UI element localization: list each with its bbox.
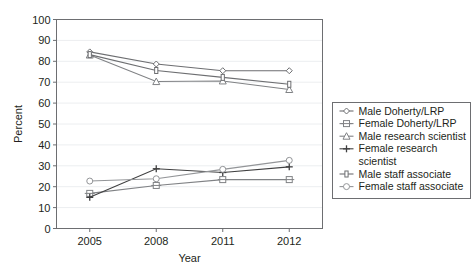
series-line-4 [90,55,290,85]
y-tick-label-90: 90 [38,34,50,46]
datapoint-0-3 [286,68,292,74]
datapoint-3-3 [286,163,293,170]
datapoint-1-3 [284,177,294,183]
legend-marker-1 [342,121,352,127]
y-tick-label-20: 20 [38,181,50,193]
legend-label-4: scientist [359,155,397,167]
y-tick-label-100: 100 [32,14,50,26]
datapoint-1-2 [218,177,228,183]
y-tick-label-60: 60 [38,97,50,109]
datapoint-0-1 [153,61,159,67]
y-tick-label-70: 70 [38,76,50,88]
y-tick-label-40: 40 [38,139,50,151]
chart-figure: 01020304050607080901002005200820112012Ye… [0,0,474,276]
x-tick-label-2005: 2005 [78,235,102,247]
legend-label-0: Male Doherty/LRP [359,105,445,117]
legend-marker-5 [344,184,350,190]
datapoint-5-3 [286,157,292,163]
legend-label-6: Female staff associate [359,180,464,192]
datapoint-5-2 [220,166,226,172]
datapoint-4-0 [88,52,91,58]
datapoint-4-3 [288,81,291,87]
datapoint-0-2 [220,68,226,74]
legend-label-3: Female research [359,142,438,154]
y-tick-label-0: 0 [44,223,50,235]
x-tick-label-2011: 2011 [211,235,235,247]
legend-label-1: Female Doherty/LRP [359,117,457,129]
datapoint-5-0 [87,178,93,184]
datapoint-4-2 [221,74,224,80]
legend-label-5: Male staff associate [359,168,452,180]
y-tick-label-80: 80 [38,55,50,67]
x-axis-title: Year [178,252,201,264]
series-2 [86,52,293,93]
legend-marker-4 [345,171,348,177]
y-tick-label-10: 10 [38,202,50,214]
legend-label-2: Male research scientist [359,130,466,142]
y-tick-label-50: 50 [38,118,50,130]
datapoint-4-1 [155,67,158,73]
y-tick-label-30: 30 [38,160,50,172]
datapoint-5-1 [153,176,159,182]
x-tick-label-2012: 2012 [277,235,301,247]
datapoint-1-1 [151,182,161,188]
y-axis-title: Percent [12,105,24,143]
series-line-2 [90,55,290,89]
x-tick-label-2008: 2008 [144,235,168,247]
line-chart: 01020304050607080901002005200820112012Ye… [0,0,474,276]
